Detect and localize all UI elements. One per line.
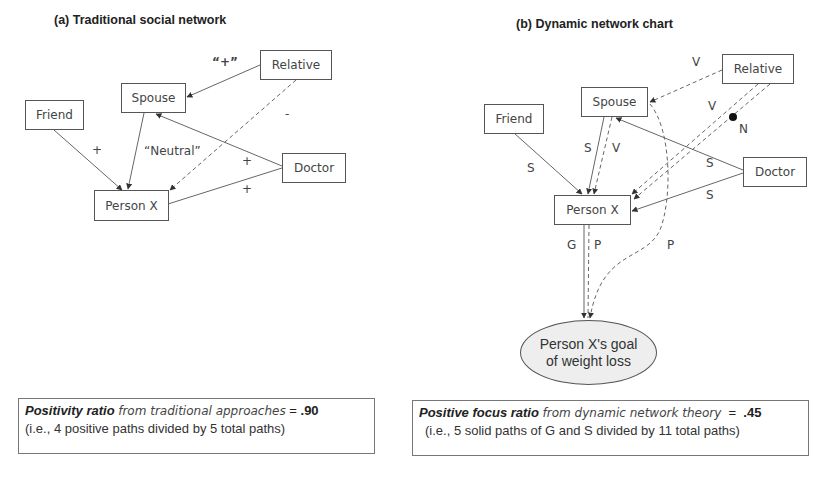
neutral-dot-icon [729, 113, 737, 121]
edge-a-relative-spouse [187, 65, 260, 97]
summary-b-equals: = [721, 405, 743, 420]
edge-b-relative-spouse [650, 70, 722, 102]
goal-line1: Person X's goal [540, 336, 638, 353]
summary-b-detail: (i.e., 5 solid paths of G and S divided … [419, 423, 802, 438]
node-b-goal: Person X's goal of weight loss [520, 320, 657, 385]
panel-b-title: (b) Dynamic network chart [516, 17, 673, 31]
node-b-spouse: Spouse [581, 87, 648, 117]
summary-b-line1: Positive focus ratio from dynamic networ… [419, 405, 802, 420]
label-a-relative-person: - [285, 107, 289, 121]
label-b-relative-person-v: V [708, 99, 716, 113]
label-b-friend-person: S [527, 161, 535, 175]
label-b-person-goal-g: G [567, 238, 576, 252]
summary-b: Positive focus ratio from dynamic networ… [412, 400, 809, 456]
label-b-spouse-person-s: S [584, 141, 592, 155]
edge-b-doctor-person [632, 173, 743, 211]
node-a-spouse: Spouse [121, 83, 186, 113]
edge-a-doctor-spouse [156, 114, 282, 166]
label-b-person-goal-p: P [594, 238, 601, 252]
node-b-person-x: Person X [554, 195, 631, 225]
label-b-spouse-goal-p: P [667, 238, 674, 252]
summary-a-detail: (i.e., 4 positive paths divided by 5 tot… [25, 421, 368, 436]
edge-b-spouse-person-v [594, 117, 612, 194]
label-a-spouse-person: “Neutral” [144, 144, 201, 158]
node-b-friend: Friend [484, 104, 544, 134]
summary-a-title: Positivity ratio [25, 403, 115, 418]
panel-a-title: (a) Traditional social network [54, 13, 226, 27]
summary-b-title: Positive focus ratio [419, 405, 539, 420]
edge-a-friend-person [54, 130, 122, 190]
node-a-relative: Relative [260, 50, 332, 80]
label-b-doctor-spouse: S [706, 156, 714, 170]
summary-a-value: .90 [301, 403, 319, 418]
label-b-relative-spouse: V [692, 55, 700, 69]
edge-b-person-goal-p [588, 225, 589, 318]
edge-a-spouse-person [128, 113, 144, 189]
node-a-doctor: Doctor [282, 153, 346, 183]
label-b-doctor-person: S [706, 188, 714, 202]
node-a-person-x: Person X [94, 190, 169, 221]
summary-b-value: .45 [743, 405, 761, 420]
label-a-doctor-spouse: + [242, 154, 252, 168]
label-b-relative-person-n: N [739, 122, 748, 136]
summary-a: Positivity ratio from traditional approa… [18, 398, 375, 454]
edge-b-friend-person [514, 133, 582, 194]
summary-a-subtitle: from traditional approaches [118, 404, 286, 418]
node-a-friend: Friend [25, 100, 84, 130]
node-b-relative: Relative [722, 54, 794, 84]
summary-a-line1: Positivity ratio from traditional approa… [25, 403, 368, 418]
label-a-relative-spouse: “+” [212, 55, 238, 69]
label-b-spouse-person-v: V [612, 141, 620, 155]
summary-b-subtitle: from dynamic network theory [543, 406, 722, 420]
node-b-doctor: Doctor [743, 157, 807, 187]
edge-a-doctor-person [168, 168, 282, 204]
label-a-friend-person: + [92, 143, 102, 157]
edge-b-relative-person-v [632, 84, 758, 194]
goal-line2: of weight loss [546, 353, 631, 370]
edge-b-spouse-person-s [588, 117, 604, 194]
label-a-doctor-person: + [242, 182, 252, 196]
summary-a-equals: = [286, 403, 301, 418]
edge-b-doctor-spouse [616, 118, 743, 170]
